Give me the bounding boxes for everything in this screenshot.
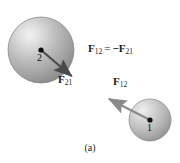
sphere-2-label: 2: [37, 53, 42, 63]
equation-rhs-subscript: 21: [125, 47, 133, 56]
figure-caption: (a): [0, 143, 180, 153]
figure-canvas: [0, 0, 180, 163]
equation-lhs-symbol: F: [88, 42, 95, 54]
third-law-equation: F12=−F21: [88, 43, 133, 54]
equation-lhs-subscript: 12: [95, 47, 103, 56]
force-21-label: F21: [58, 74, 72, 85]
force-21-symbol: F: [58, 73, 65, 85]
newtons-third-law-figure: 2 1 F21 F12 F12=−F21 (a): [0, 0, 180, 163]
force-12-label: F12: [113, 76, 127, 87]
force-12-symbol: F: [113, 75, 120, 87]
force-21-subscript: 21: [65, 78, 73, 87]
force-12-subscript: 12: [120, 80, 128, 89]
equation-operator: =: [102, 42, 112, 54]
sphere-1-label: 1: [147, 123, 152, 133]
